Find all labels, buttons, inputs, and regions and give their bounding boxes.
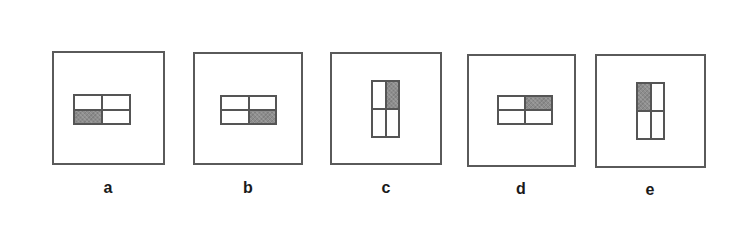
feature-rect-d xyxy=(497,95,553,125)
shaded-cell-bottom-right xyxy=(250,111,276,123)
cell-top-left xyxy=(75,96,101,109)
feature-rect-e xyxy=(636,82,665,140)
feature-rect-c xyxy=(371,80,400,138)
feature-rect-a xyxy=(73,94,131,125)
panel-label-d: d xyxy=(501,181,541,197)
panel-label-c: c xyxy=(366,180,406,196)
cell-bottom-left xyxy=(638,112,650,138)
cell-top-left xyxy=(499,97,524,109)
cell-top-right xyxy=(250,97,276,109)
cell-top-left xyxy=(222,97,248,109)
cell-bottom-right xyxy=(526,111,551,123)
panel-label-e: e xyxy=(630,182,670,198)
cell-bottom-right xyxy=(652,112,664,138)
feature-rect-b xyxy=(220,95,277,125)
cell-top-left xyxy=(373,82,385,108)
cell-top-right xyxy=(103,96,129,109)
cell-bottom-right xyxy=(103,111,129,124)
panel-label-a: a xyxy=(88,180,128,196)
shaded-cell-top-right xyxy=(387,82,399,108)
cell-bottom-left xyxy=(222,111,248,123)
panel-label-b: b xyxy=(228,180,268,196)
cell-bottom-left xyxy=(373,110,385,136)
shaded-cell-bottom-left xyxy=(75,111,101,124)
cell-bottom-left xyxy=(499,111,524,123)
cell-bottom-right xyxy=(387,110,399,136)
cell-top-right xyxy=(652,84,664,110)
shaded-cell-top-right xyxy=(526,97,551,109)
shaded-cell-top-left xyxy=(638,84,650,110)
